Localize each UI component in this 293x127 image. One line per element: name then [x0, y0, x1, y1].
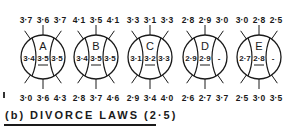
bottom-spoke-2: [163, 75, 169, 83]
circle-glyph-e: 3·02·82·52·53·03·5E2·72·8-: [236, 15, 283, 103]
top-spoke-0: [187, 31, 193, 39]
top-value-1: 2·8: [253, 15, 266, 25]
bottom-spoke-2: [218, 75, 224, 83]
left-value: 2·9: [185, 54, 197, 63]
bottom-value-2: 4·0: [161, 93, 174, 103]
top-value-2: 3·7: [54, 15, 67, 25]
circle-letter: C: [146, 40, 154, 52]
bottom-spoke-0: [78, 75, 84, 83]
left-value: 2·7: [239, 54, 251, 63]
bottom-value-1: 3·4: [144, 93, 157, 103]
bottom-value-2: 4·6: [107, 93, 120, 103]
left-value: 3·4: [23, 54, 35, 63]
top-value-1: 3·6: [37, 15, 50, 25]
top-value-2: 3·3: [161, 15, 174, 25]
top-value-0: 3·0: [236, 15, 249, 25]
bottom-value-0: 3·0: [20, 93, 33, 103]
circle-glyph-b: 4·13·54·12·83·74·6B3·43·53·5: [73, 15, 120, 103]
left-value: 3·1: [130, 54, 142, 63]
divorce-laws-diagram: 3·73·63·73·03·64·3A3·43·53·54·13·54·12·8…: [0, 0, 293, 127]
bottom-value-1: 3·6: [37, 93, 50, 103]
bottom-spoke-0: [241, 75, 247, 83]
top-value-0: 2·8: [182, 15, 195, 25]
center-value: 2·8: [253, 54, 265, 63]
bottom-value-2: 3·5: [270, 93, 283, 103]
top-spoke-2: [218, 31, 224, 39]
top-value-1: 2·9: [199, 15, 212, 25]
right-value: -: [272, 54, 275, 63]
top-value-0: 3·7: [20, 15, 33, 25]
center-value: 3·2: [144, 54, 156, 63]
right-value: 3·5: [51, 54, 63, 63]
circle-letter: E: [255, 40, 262, 52]
top-spoke-0: [78, 31, 84, 39]
top-spoke-0: [25, 31, 31, 39]
right-divider-arc: [212, 38, 216, 76]
bottom-spoke-2: [56, 75, 62, 83]
bottom-value-0: 2·9: [127, 93, 140, 103]
left-value: 3·4: [76, 54, 88, 63]
bottom-value-2: 4·3: [54, 93, 67, 103]
bottom-spoke-2: [109, 75, 115, 83]
top-spoke-2: [109, 31, 115, 39]
bottom-spoke-0: [25, 75, 31, 83]
bottom-spoke-0: [187, 75, 193, 83]
circle-letter: D: [201, 40, 209, 52]
bottom-value-1: 3·7: [90, 93, 103, 103]
center-value: 3·5: [90, 54, 102, 63]
top-value-2: 4·1: [107, 15, 120, 25]
bottom-spoke-2: [272, 75, 278, 83]
bottom-value-2: 3·7: [216, 93, 229, 103]
bottom-value-0: 2·5: [236, 93, 249, 103]
right-value: 3·3: [158, 54, 170, 63]
top-value-0: 3·3: [127, 15, 140, 25]
top-spoke-2: [56, 31, 62, 39]
right-value: -: [218, 54, 221, 63]
bottom-value-1: 2·7: [199, 93, 212, 103]
top-value-2: 2·5: [270, 15, 283, 25]
top-value-1: 3·1: [144, 15, 157, 25]
top-spoke-2: [163, 31, 169, 39]
circle-glyph-c: 3·33·13·32·93·44·0C3·13·23·3: [127, 15, 174, 103]
circle-glyph-a: 3·73·63·73·03·64·3A3·43·53·5: [20, 15, 67, 103]
figure-title: (b) DIVORCE LAWS (2·5): [5, 109, 177, 121]
top-spoke-0: [241, 31, 247, 39]
top-value-2: 3·0: [216, 15, 229, 25]
bottom-value-1: 3·0: [253, 93, 266, 103]
right-divider-arc: [266, 38, 270, 76]
circle-glyph-d: 2·82·93·02·62·73·7D2·92·9-: [182, 15, 229, 103]
top-spoke-2: [272, 31, 278, 39]
bottom-spoke-0: [132, 75, 138, 83]
bottom-value-0: 2·8: [73, 93, 86, 103]
center-value: 2·9: [199, 54, 211, 63]
circle-letter: A: [39, 40, 47, 52]
title-underline: [4, 124, 156, 126]
right-value: 3·5: [104, 54, 116, 63]
top-value-1: 3·5: [90, 15, 103, 25]
top-spoke-0: [132, 31, 138, 39]
circle-letter: B: [92, 40, 99, 52]
bottom-value-0: 2·6: [182, 93, 195, 103]
center-value: 3·5: [37, 54, 49, 63]
top-value-0: 4·1: [73, 15, 86, 25]
